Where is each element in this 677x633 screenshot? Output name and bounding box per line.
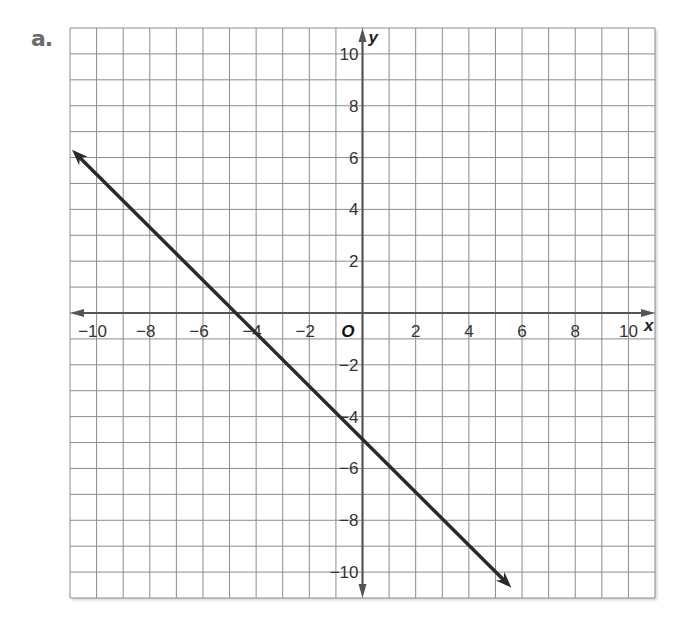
- x-tick-label: 6: [517, 322, 526, 341]
- x-tick-label: 8: [570, 322, 579, 341]
- coordinate-plane: −10−8−6−4−2246810108642−2−4−6−8−10Oxy: [0, 0, 677, 633]
- y-tick-label: 6: [349, 149, 358, 168]
- x-axis-label: x: [643, 316, 655, 335]
- y-tick-label: 2: [349, 252, 358, 271]
- x-tick-label: −8: [136, 322, 155, 341]
- origin-label: O: [341, 322, 354, 341]
- x-tick-label: 10: [619, 322, 638, 341]
- x-tick-label: 4: [464, 322, 473, 341]
- y-tick-label: 10: [340, 45, 359, 64]
- y-tick-label: 4: [349, 200, 358, 219]
- y-tick-label: −10: [330, 563, 359, 582]
- y-tick-label: −6: [339, 459, 358, 478]
- y-tick-label: −8: [339, 511, 358, 530]
- x-tick-label: −2: [296, 322, 315, 341]
- y-tick-label: −2: [339, 356, 358, 375]
- x-tick-label: −10: [78, 322, 107, 341]
- y-tick-label: 8: [349, 97, 358, 116]
- x-tick-label: 2: [411, 322, 420, 341]
- x-tick-label: −6: [189, 322, 208, 341]
- y-axis-label: y: [368, 28, 380, 47]
